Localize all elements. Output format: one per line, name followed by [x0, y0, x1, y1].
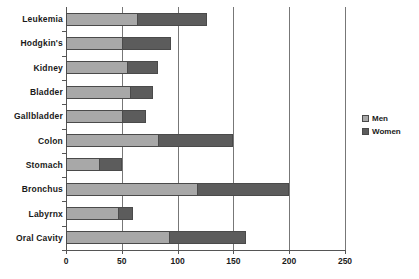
bar-labyrnx: [66, 207, 133, 220]
bar-colon: [66, 134, 233, 147]
bar-stomach: [66, 158, 122, 171]
x-axis-line: [66, 250, 346, 251]
bar-segment-men: [66, 207, 118, 220]
bar-segment-women: [99, 158, 121, 171]
grid-line-100: [178, 7, 179, 250]
bar-segment-men: [66, 86, 130, 99]
y-tick-5: [62, 153, 66, 154]
y-axis-label-hodgkin-s: Hodgkin's: [1, 38, 63, 48]
x-tick-label-50: 50: [117, 256, 126, 266]
grid-line-200: [289, 7, 290, 250]
plot-area: [66, 7, 345, 250]
grid-line-150: [233, 7, 234, 250]
y-tick-9: [62, 250, 66, 251]
bar-segment-men: [66, 134, 158, 147]
y-axis-label-gallbladder: Gallbladder: [1, 111, 63, 121]
x-tick-250: [345, 250, 346, 254]
y-axis-label-labyrnx: Labyrnx: [1, 209, 63, 219]
legend-swatch-icon-men: [362, 115, 369, 122]
bar-kidney: [66, 61, 158, 74]
y-axis-label-stomach: Stomach: [1, 160, 63, 170]
y-axis-label-bronchus: Bronchus: [1, 184, 63, 194]
x-tick-label-200: 200: [282, 256, 296, 266]
bar-leukemia: [66, 13, 207, 26]
y-axis-label-oral-cavity: Oral Cavity: [1, 233, 63, 243]
bar-segment-men: [66, 61, 127, 74]
bar-segment-women: [158, 134, 234, 147]
y-tick-3: [62, 104, 66, 105]
y-tick-2: [62, 80, 66, 81]
bar-segment-women: [169, 231, 246, 244]
y-axis-label-leukemia: Leukemia: [1, 14, 63, 24]
y-axis-label-bladder: Bladder: [1, 87, 63, 97]
bar-segment-men: [66, 231, 169, 244]
legend-label-women: Women: [372, 127, 401, 136]
bar-segment-men: [66, 183, 197, 196]
legend-item-men[interactable]: Men: [362, 113, 418, 123]
bar-oral-cavity: [66, 231, 246, 244]
x-tick-50: [122, 250, 123, 254]
legend-swatch-icon-women: [362, 128, 369, 135]
bar-segment-men: [66, 158, 99, 171]
x-tick-label-100: 100: [171, 256, 185, 266]
x-tick-150: [233, 250, 234, 254]
bar-segment-women: [127, 61, 157, 74]
bar-segment-women: [197, 183, 290, 196]
bar-bladder: [66, 86, 153, 99]
y-axis-label-colon: Colon: [1, 136, 63, 146]
bar-gallbladder: [66, 110, 146, 123]
y-tick-1: [62, 56, 66, 57]
bar-segment-women: [122, 37, 171, 50]
bar-segment-women: [118, 207, 133, 220]
x-tick-label-250: 250: [338, 256, 352, 266]
x-tick-0: [66, 250, 67, 254]
chart-screenshot: LeukemiaHodgkin'sKidneyBladderGallbladde…: [0, 0, 419, 279]
legend-item-women[interactable]: Women: [362, 126, 418, 136]
chart-legend: MenWomen: [362, 113, 418, 139]
y-tick-6: [62, 177, 66, 178]
bar-segment-men: [66, 110, 122, 123]
x-tick-label-150: 150: [226, 256, 240, 266]
x-tick-200: [289, 250, 290, 254]
y-tick-0: [62, 31, 66, 32]
bar-bronchus: [66, 183, 289, 196]
grid-line-250: [345, 7, 346, 250]
y-tick-8: [62, 226, 66, 227]
bar-segment-women: [137, 13, 206, 26]
x-tick-label-0: 0: [64, 256, 69, 266]
x-tick-100: [178, 250, 179, 254]
y-tick-7: [62, 201, 66, 202]
bar-segment-men: [66, 13, 137, 26]
bar-segment-women: [122, 110, 147, 123]
bar-segment-men: [66, 37, 122, 50]
bar-hodgkin-s: [66, 37, 171, 50]
bar-segment-women: [130, 86, 153, 99]
y-tick-4: [62, 129, 66, 130]
y-axis-label-kidney: Kidney: [1, 63, 63, 73]
y-axis-category-labels: LeukemiaHodgkin'sKidneyBladderGallbladde…: [0, 0, 63, 279]
legend-label-men: Men: [372, 114, 388, 123]
